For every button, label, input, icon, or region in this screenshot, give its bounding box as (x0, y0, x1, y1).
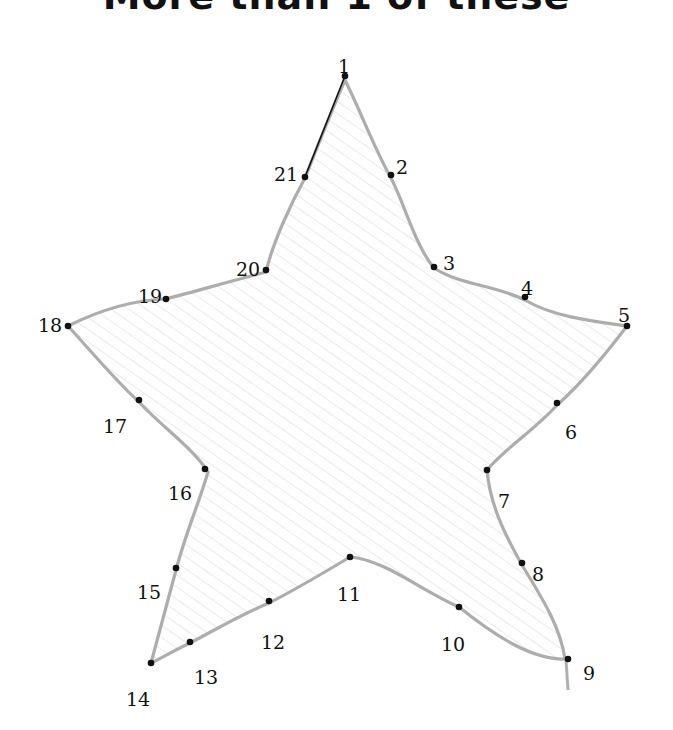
dot-label-5: 5 (618, 304, 630, 326)
dot-7 (484, 467, 491, 474)
dot-label-9: 9 (583, 662, 595, 684)
dot-label-15: 15 (137, 581, 161, 603)
dot-label-17: 17 (103, 415, 127, 437)
dot-label-12: 12 (261, 631, 285, 653)
dot-3 (431, 264, 438, 271)
dot-label-7: 7 (498, 490, 510, 512)
dot-17 (136, 397, 143, 404)
dot-label-8: 8 (532, 563, 544, 585)
dot-10 (456, 604, 463, 611)
dot-label-16: 16 (168, 482, 192, 504)
dot-label-14: 14 (126, 688, 150, 710)
dot-11 (347, 554, 354, 561)
dot-label-4: 4 (521, 277, 533, 299)
dot-16 (202, 466, 209, 473)
dot-label-6: 6 (565, 421, 577, 443)
dot-19 (163, 296, 170, 303)
dot-label-11: 11 (337, 583, 361, 605)
dot-label-2: 2 (396, 156, 408, 178)
dot-15 (173, 565, 180, 572)
dot-label-20: 20 (236, 258, 260, 280)
dot-label-13: 13 (194, 666, 218, 688)
dot-label-18: 18 (38, 314, 62, 336)
dot-14 (148, 660, 155, 667)
dot-21 (302, 174, 309, 181)
dot-12 (266, 598, 273, 605)
dot-18 (65, 323, 72, 330)
dot-label-1: 1 (338, 55, 350, 77)
dot-6 (554, 400, 561, 407)
dot-label-10: 10 (441, 633, 465, 655)
dot-20 (263, 267, 270, 274)
dot-label-21: 21 (274, 163, 298, 185)
dot-2 (388, 172, 395, 179)
dot-8 (519, 560, 526, 567)
dot-label-19: 19 (138, 285, 162, 307)
dot-13 (187, 639, 194, 646)
dot-label-3: 3 (443, 252, 455, 274)
star-drawing: 123456789101112131415161718192021 (0, 0, 673, 730)
dot-9 (565, 656, 572, 663)
pencil-tail (566, 660, 568, 690)
